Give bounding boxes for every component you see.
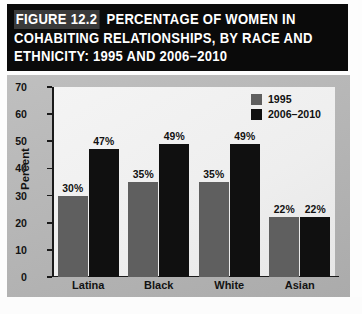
bar-group: 22%22% xyxy=(269,87,330,277)
bar-value-label: 35% xyxy=(123,169,163,180)
figure-title-band: FIGURE 12.2PERCENTAGE OF WOMEN IN COHABI… xyxy=(7,4,348,71)
y-axis-tick xyxy=(47,168,52,170)
figure-title-line-1: FIGURE 12.2PERCENTAGE OF WOMEN IN xyxy=(14,10,315,29)
y-axis-tick xyxy=(47,113,52,115)
bar-value-label: 49% xyxy=(225,131,265,142)
y-axis-tick xyxy=(47,140,52,142)
category-label: Asian xyxy=(255,279,345,291)
bottom-strip xyxy=(0,297,362,314)
bar[interactable] xyxy=(300,217,330,277)
y-axis-tick-label: 60 xyxy=(0,109,27,119)
y-axis-tick xyxy=(47,249,52,251)
bar-value-label: 35% xyxy=(194,169,234,180)
bar[interactable] xyxy=(58,196,88,277)
figure-title-line-3: ETHNICITY: 1995 AND 2006–2010 xyxy=(14,47,315,66)
bar-value-label: 30% xyxy=(53,183,93,194)
figure-title-text-1: PERCENTAGE OF WOMEN IN xyxy=(106,11,295,27)
figure-number-label: FIGURE 12.2 xyxy=(14,10,100,29)
bar[interactable] xyxy=(89,149,119,277)
figure-title-line-2: COHABITING RELATIONSHIPS, BY RACE AND xyxy=(14,29,315,48)
bar-group: 35%49% xyxy=(128,87,189,277)
bar-group: 30%47% xyxy=(58,87,119,277)
y-axis-tick-label: 10 xyxy=(0,245,27,255)
y-axis-tick-label: 50 xyxy=(0,136,27,146)
y-axis-tick-label: 30 xyxy=(0,191,27,201)
bar[interactable] xyxy=(159,144,189,277)
bar-value-label: 47% xyxy=(84,136,124,147)
bar[interactable] xyxy=(199,182,229,277)
bar-group: 35%49% xyxy=(199,87,260,277)
bar-value-label: 22% xyxy=(295,204,335,215)
y-axis-tick xyxy=(47,222,52,224)
bar[interactable] xyxy=(230,144,260,277)
y-axis-tick xyxy=(47,276,52,278)
bar[interactable] xyxy=(128,182,158,277)
bar[interactable] xyxy=(269,217,299,277)
bar-value-label: 49% xyxy=(154,131,194,142)
chart-container: 19952006–2010 Percent 706050403020100 30… xyxy=(7,75,350,297)
y-axis-tick-label: 0 xyxy=(0,272,27,282)
y-axis-tick-label: 70 xyxy=(0,82,27,92)
y-axis-tick-label: 20 xyxy=(0,218,27,228)
y-axis-tick-label: 40 xyxy=(0,163,27,173)
figure-root: FIGURE 12.2PERCENTAGE OF WOMEN IN COHABI… xyxy=(0,0,362,314)
y-axis-tick xyxy=(47,195,52,197)
y-axis-tick xyxy=(47,86,52,88)
